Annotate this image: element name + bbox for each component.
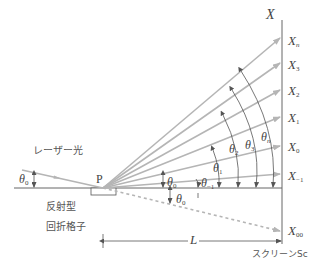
distance-l-label: L — [188, 233, 199, 246]
theta-minus1-label: θ−1 — [201, 177, 214, 191]
ray-x3 — [103, 63, 280, 188]
theta0-lower-label: θ0 — [176, 193, 185, 207]
theta2-label: θ2 — [229, 143, 238, 157]
thetan-label: θn — [261, 131, 270, 145]
grating-label-line1: 反射型 — [46, 202, 76, 212]
theta0-upper-label: θ0 — [167, 176, 176, 190]
screen-point-x3: X3 — [288, 58, 299, 73]
screen-point-x2: X2 — [288, 84, 299, 99]
theta1-label: θ1 — [213, 162, 222, 176]
theta3-label: θ3 — [245, 139, 254, 153]
screen-point-x0: X0 — [288, 140, 299, 155]
screen-label: スクリーンSc — [252, 250, 308, 259]
screen-point-x1: X1 — [288, 111, 299, 126]
screen-point-xn: Xn — [288, 34, 299, 49]
screen-point-x00: X00 — [288, 224, 303, 239]
laser-label: レーザー光 — [33, 146, 83, 156]
grating-label-line2: 回折格子 — [46, 222, 86, 232]
point-p-label: P — [96, 173, 103, 185]
ray-xn — [103, 38, 280, 188]
screen-point-x-1: X−1 — [288, 169, 303, 184]
ray-x00-dashed — [103, 188, 280, 231]
theta0-incident-label: θ0 — [19, 173, 28, 187]
axis-x-label: X — [266, 8, 275, 22]
grating-rect — [91, 188, 116, 195]
diffracted-rays — [103, 38, 280, 231]
